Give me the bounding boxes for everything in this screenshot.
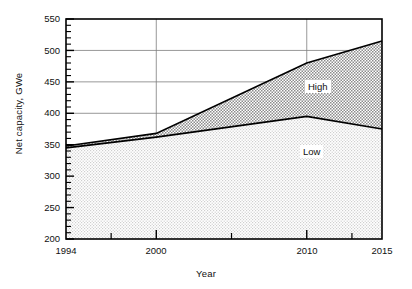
y-tick-label-400: 400 (30, 107, 60, 118)
x-tick-label-2010: 2010 (287, 245, 327, 256)
chart-figure: 550 500 450 400 350 300 250 200 1994 200… (0, 0, 412, 289)
y-tick-label-550: 550 (30, 13, 60, 24)
y-tick-label-250: 250 (30, 202, 60, 213)
x-tick-label-2000: 2000 (136, 245, 176, 256)
series-label-high: High (305, 80, 331, 93)
y-tick-label-200: 200 (30, 233, 60, 244)
y-tick-label-300: 300 (30, 170, 60, 181)
x-tick-label-2015: 2015 (362, 245, 402, 256)
y-tick-label-500: 500 (30, 45, 60, 56)
y-axis-title: Net capacity, GWe (13, 59, 24, 169)
series-label-low: Low (300, 145, 323, 158)
y-tick-label-450: 450 (30, 76, 60, 87)
x-tick-label-1994: 1994 (46, 245, 86, 256)
y-tick-label-350: 350 (30, 139, 60, 150)
x-axis-title: Year (0, 268, 412, 279)
